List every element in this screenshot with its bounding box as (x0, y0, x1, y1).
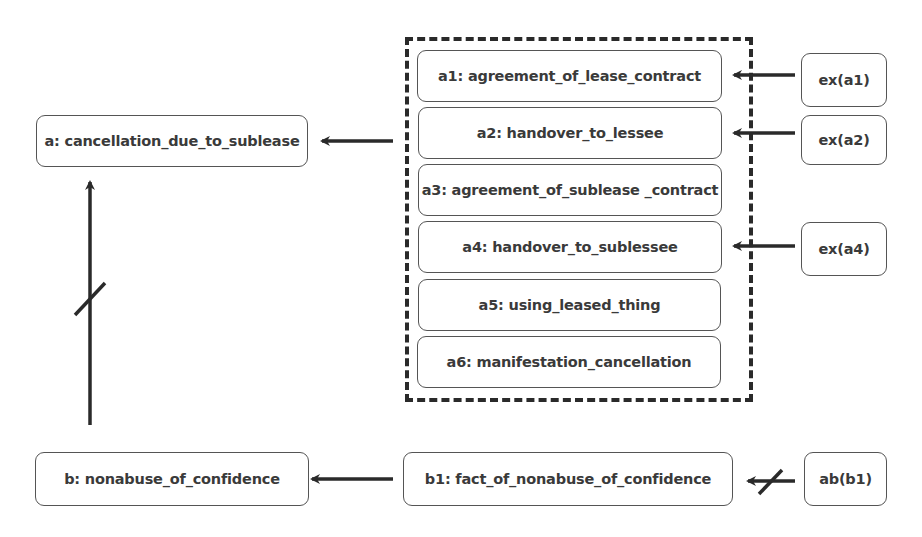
edge-b-attacks-a (75, 182, 105, 425)
edges-layer (0, 0, 922, 537)
edge-ab-b1-attacks-b1 (748, 470, 795, 494)
